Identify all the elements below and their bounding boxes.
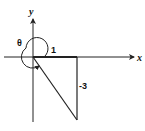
angle-arc xyxy=(21,38,48,69)
terminal-side xyxy=(33,57,77,120)
coordinate-diagram: x y 1 -3 θ xyxy=(0,0,145,131)
y-axis-label: y xyxy=(28,6,34,17)
horizontal-leg-label: 1 xyxy=(51,45,56,55)
vertical-leg-label: -3 xyxy=(79,81,87,91)
x-axis-label: x xyxy=(136,52,142,63)
angle-label: θ xyxy=(17,38,22,48)
